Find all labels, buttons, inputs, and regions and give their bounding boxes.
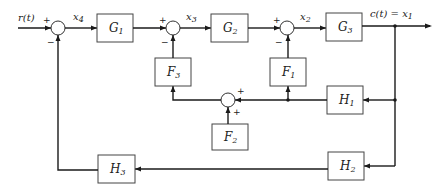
arrow-icon <box>274 26 280 31</box>
arrow-icon <box>235 98 241 103</box>
sum2-plus: + <box>159 15 167 25</box>
arrow-icon <box>160 26 166 31</box>
arrow-icon <box>425 24 432 29</box>
summing-junction-3 <box>280 21 294 35</box>
arrow-icon <box>364 164 370 169</box>
sum3-minus: − <box>275 37 283 47</box>
sum2-minus: − <box>161 37 169 47</box>
arrow-icon <box>286 35 291 41</box>
x3-label: x3 <box>186 11 197 24</box>
summing-junction-4 <box>221 93 235 107</box>
arrow-icon <box>91 26 97 31</box>
arrow-icon <box>135 167 141 172</box>
output-signal-label: c(t) = x1 <box>370 8 413 21</box>
h3-out-line <box>58 35 98 170</box>
arrow-icon <box>45 26 51 31</box>
sum4-plus-right: + <box>237 86 245 96</box>
input-signal-label: r(t) <box>18 12 35 23</box>
arrow-icon <box>226 107 231 113</box>
x2-label: x2 <box>300 11 311 24</box>
arrow-icon <box>363 98 369 103</box>
x4-label: x4 <box>73 11 84 24</box>
sum1-minus: − <box>47 37 55 47</box>
sum4-plus-bottom: + <box>233 107 241 117</box>
arrow-icon <box>320 26 326 31</box>
block-diagram: r(t) + − x4 G1 + − x3 G2 + − x2 G3 c(t) … <box>0 0 444 193</box>
summing-junction-1 <box>51 21 65 35</box>
sum3-plus: + <box>273 15 281 25</box>
arrow-icon <box>205 26 211 31</box>
summing-junction-2 <box>166 21 180 35</box>
arrow-icon <box>286 86 291 92</box>
arrow-icon <box>56 35 61 41</box>
arrow-icon <box>171 35 176 41</box>
arrow-icon <box>171 86 176 92</box>
sum4-to-f3-line <box>173 86 221 100</box>
sum1-plus: + <box>43 15 51 25</box>
